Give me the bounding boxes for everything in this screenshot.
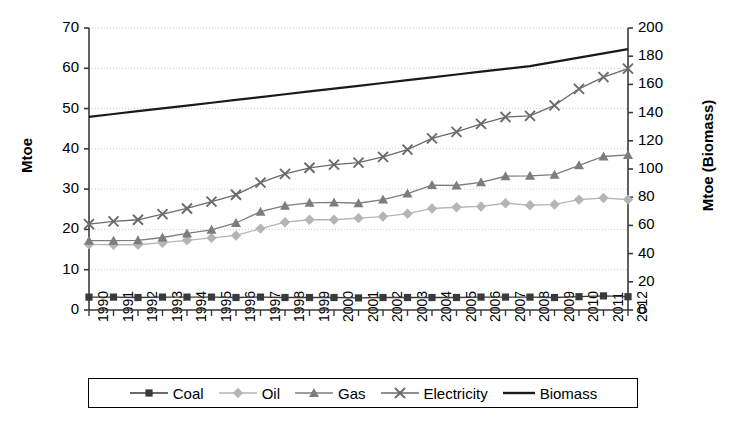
marker-diamond	[232, 388, 242, 398]
marker-triangle	[550, 170, 560, 179]
marker-square	[134, 294, 141, 301]
marker-cross	[427, 133, 437, 143]
legend-swatch-gas-icon	[294, 385, 334, 401]
marker-diamond	[476, 201, 486, 211]
legend-label: Coal	[173, 385, 204, 402]
legend-label: Oil	[262, 385, 280, 402]
series-biomass	[89, 49, 628, 117]
marker-cross	[182, 203, 192, 213]
marker-diamond	[206, 233, 216, 243]
legend-item-coal[interactable]: Coal	[129, 385, 204, 402]
marker-square	[110, 294, 117, 301]
marker-square	[85, 294, 92, 301]
marker-square	[551, 294, 558, 301]
marker-square	[183, 294, 190, 301]
marker-cross	[231, 190, 241, 200]
marker-diamond	[353, 213, 363, 223]
marker-cross	[574, 84, 584, 94]
marker-diamond	[549, 199, 559, 209]
legend-label: Gas	[338, 385, 366, 402]
marker-triangle	[623, 150, 633, 159]
plot-area	[0, 0, 738, 425]
marker-square	[379, 294, 386, 301]
marker-cross	[280, 169, 290, 179]
marker-diamond	[378, 211, 388, 221]
legend-item-oil[interactable]: Oil	[218, 385, 280, 402]
marker-diamond	[231, 230, 241, 240]
marker-diamond	[304, 215, 314, 225]
marker-cross	[256, 178, 266, 188]
marker-diamond	[402, 209, 412, 219]
marker-cross	[378, 152, 388, 162]
legend-item-electricity[interactable]: Electricity	[380, 385, 488, 402]
series-gas	[84, 150, 633, 245]
legend-item-biomass[interactable]: Biomass	[502, 385, 598, 402]
marker-diamond	[525, 200, 535, 210]
marker-triangle	[574, 160, 584, 169]
marker-cross	[158, 209, 168, 219]
marker-diamond	[329, 215, 339, 225]
marker-square	[477, 294, 484, 301]
marker-diamond	[500, 198, 510, 208]
legend-swatch-biomass-icon	[502, 385, 536, 401]
marker-diamond	[623, 194, 633, 204]
chart-container: Mtoe Mtoe (Biomass) 010203040506070 0204…	[0, 0, 738, 425]
marker-cross	[599, 72, 609, 82]
legend-swatch-coal-icon	[129, 385, 169, 401]
legend-item-gas[interactable]: Gas	[294, 385, 366, 402]
marker-cross	[403, 145, 413, 155]
marker-square	[624, 293, 631, 300]
marker-square	[404, 294, 411, 301]
chart-legend: CoalOilGasElectricityBiomass	[88, 378, 638, 408]
series-line	[89, 49, 628, 117]
legend-label: Electricity	[424, 385, 488, 402]
marker-square	[428, 294, 435, 301]
marker-square	[526, 294, 533, 301]
marker-square	[330, 294, 337, 301]
marker-cross	[476, 119, 486, 129]
marker-square	[502, 294, 509, 301]
marker-square	[355, 294, 362, 301]
series-line	[89, 155, 628, 241]
series-coal	[85, 292, 631, 301]
marker-square	[453, 294, 460, 301]
legend-swatch-electricity-icon	[380, 385, 420, 401]
marker-square	[208, 294, 215, 301]
marker-square	[257, 294, 264, 301]
marker-diamond	[574, 194, 584, 204]
marker-triangle	[403, 189, 413, 198]
marker-square	[232, 294, 239, 301]
marker-cross	[452, 127, 462, 137]
marker-diamond	[598, 193, 608, 203]
marker-square	[600, 292, 607, 299]
marker-square	[575, 293, 582, 300]
marker-diamond	[451, 202, 461, 212]
marker-square	[159, 294, 166, 301]
legend-swatch-oil-icon	[218, 385, 258, 401]
marker-diamond	[255, 223, 265, 233]
legend-label: Biomass	[540, 385, 598, 402]
marker-cross	[207, 197, 217, 207]
marker-diamond	[427, 203, 437, 213]
marker-square	[306, 294, 313, 301]
marker-square	[145, 389, 152, 396]
marker-square	[281, 294, 288, 301]
marker-triangle	[231, 218, 241, 227]
marker-diamond	[280, 217, 290, 227]
